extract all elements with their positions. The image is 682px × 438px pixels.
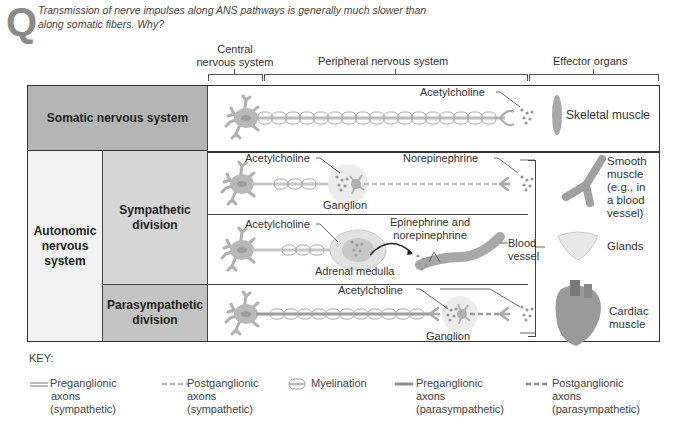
key-item-pre-symp: Preganglionic axons (sympathetic) — [50, 377, 117, 416]
key-title: KEY: — [29, 352, 53, 365]
symp-ganglion-label: Ganglion — [323, 199, 367, 212]
cardiac-muscle-label: Cardiac muscle — [609, 305, 649, 331]
para-ganglion-label: Ganglion — [426, 330, 470, 343]
smooth-line-3: (e.g., in — [607, 181, 647, 194]
blood-vessel-label: Blood vessel — [508, 237, 539, 263]
somatic-acetylcholine-label: Acetylcholine — [420, 86, 485, 99]
smooth-line-2: muscle — [607, 168, 647, 181]
smooth-line-1: Smooth — [607, 155, 647, 168]
adrenal-medulla-label: Adrenal medulla — [315, 265, 395, 278]
hormone-line-2: norepinephrine — [390, 229, 470, 242]
key-line: Preganglionic — [50, 377, 117, 390]
key-item-post-symp: Postganglionic axons (sympathetic) — [187, 377, 259, 416]
key-line: Postganglionic — [552, 377, 640, 390]
key-line: axons — [187, 390, 259, 403]
smooth-line-5: vessel) — [607, 207, 647, 220]
blood-vessel-line-1: Blood — [508, 237, 539, 250]
para-acetylcholine-label: Acetylcholine — [338, 284, 403, 297]
norepinephrine-label: Norepinephrine — [403, 152, 478, 165]
key-line: (sympathetic) — [187, 403, 259, 416]
key-line: (parasympathetic) — [416, 403, 504, 416]
cardiac-line-2: muscle — [609, 318, 649, 331]
smooth-muscle-label: Smooth muscle (e.g., in a blood vessel) — [607, 155, 647, 220]
key-item-pre-para: Preganglionic axons (parasympathetic) — [416, 377, 504, 416]
cardiac-line-1: Cardiac — [609, 305, 649, 318]
key-line: Preganglionic — [416, 377, 504, 390]
hormone-line-1: Epinephrine and — [390, 216, 470, 229]
key-line: axons — [416, 390, 504, 403]
key-line: axons — [552, 390, 640, 403]
key-line: axons — [50, 390, 117, 403]
hormone-label: Epinephrine and norepinephrine — [390, 216, 470, 242]
key-line: (parasympathetic) — [552, 403, 640, 416]
skeletal-muscle-label: Skeletal muscle — [566, 109, 650, 122]
glands-label: Glands — [607, 240, 643, 253]
key-item-post-para: Postganglionic axons (parasympathetic) — [552, 377, 640, 416]
blood-vessel-line-2: vessel — [508, 250, 539, 263]
key-line: (sympathetic) — [50, 403, 117, 416]
neuron-pathways-illustration — [0, 0, 682, 438]
symp-acetylcholine-label: Acetylcholine — [245, 152, 310, 165]
smooth-line-4: a blood — [607, 194, 647, 207]
key-line: Myelination — [311, 377, 367, 390]
key-line: Postganglionic — [187, 377, 259, 390]
key-item-myelination: Myelination — [311, 377, 367, 390]
adrenal-acetylcholine-label: Acetylcholine — [245, 218, 310, 231]
